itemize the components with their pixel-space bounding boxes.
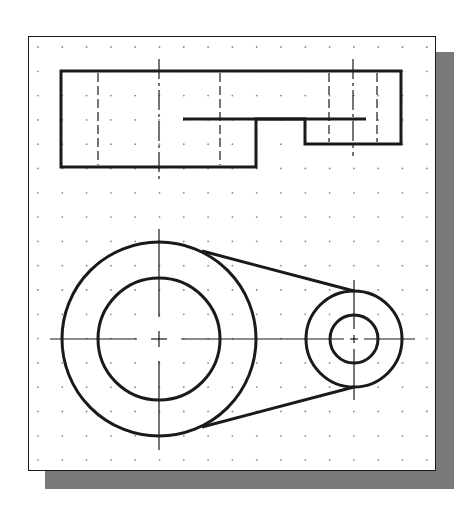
grid-dot [426, 435, 428, 437]
grid-dot [207, 241, 209, 243]
grid-dot [134, 241, 136, 243]
grid-dot [110, 362, 112, 364]
grid-dot [232, 265, 234, 267]
grid-dot [329, 435, 331, 437]
grid-dot [402, 241, 404, 243]
grid-dot [159, 459, 161, 461]
grid-dot [353, 265, 355, 267]
grid-dot [134, 362, 136, 364]
grid-dot [134, 119, 136, 121]
grid-dot [61, 216, 63, 218]
grid-dot [329, 289, 331, 291]
grid-dot [280, 459, 282, 461]
grid-dot [110, 216, 112, 218]
grid-dot [232, 459, 234, 461]
grid-dot [110, 46, 112, 48]
grid-dot [207, 216, 209, 218]
grid-dot [402, 192, 404, 194]
grid-dot [207, 459, 209, 461]
grid-dot [426, 216, 428, 218]
grid-dot [183, 435, 185, 437]
grid-dot [183, 289, 185, 291]
grid-dot [402, 386, 404, 388]
grid-dot [134, 459, 136, 461]
grid-dot [61, 192, 63, 194]
grid-dot [329, 313, 331, 315]
grid-dot [134, 95, 136, 97]
grid-dot [377, 386, 379, 388]
front-view-center-lines [50, 229, 415, 450]
grid-dot [304, 168, 306, 170]
grid-dot [86, 289, 88, 291]
grid-dot [256, 362, 258, 364]
grid-dot [426, 338, 428, 340]
grid-dot [426, 168, 428, 170]
grid-dot [183, 143, 185, 145]
grid-dot [329, 168, 331, 170]
grid-dot [304, 411, 306, 413]
grid-dot [232, 46, 234, 48]
grid-dot [353, 411, 355, 413]
grid-dot [402, 362, 404, 364]
grid-dot [402, 168, 404, 170]
grid-dot [61, 386, 63, 388]
grid-dot [377, 265, 379, 267]
grid-dot [377, 313, 379, 315]
grid-dot [353, 216, 355, 218]
grid-dot [86, 95, 88, 97]
grid-dot [280, 143, 282, 145]
grid-dot [37, 70, 39, 72]
grid-dot [256, 386, 258, 388]
grid-dot [426, 362, 428, 364]
grid-dot [37, 46, 39, 48]
grid-dot [37, 289, 39, 291]
grid-dot [86, 459, 88, 461]
grid-dot [402, 313, 404, 315]
grid-dot [426, 119, 428, 121]
grid-dot [159, 119, 161, 121]
grid-dot [232, 313, 234, 315]
grid-dot [304, 313, 306, 315]
grid-dot [61, 46, 63, 48]
grid-dot [61, 265, 63, 267]
grid-dot [402, 459, 404, 461]
grid-dot [110, 289, 112, 291]
grid-dot [86, 241, 88, 243]
grid-dot [110, 241, 112, 243]
grid-dot [426, 265, 428, 267]
grid-dot [134, 435, 136, 437]
grid-dot [37, 411, 39, 413]
grid-dot [183, 362, 185, 364]
grid-dot [110, 459, 112, 461]
belt-lower-tangent [202, 387, 354, 427]
grid-dot [402, 265, 404, 267]
grid-dot [256, 459, 258, 461]
grid-dot [37, 241, 39, 243]
grid-dot [37, 192, 39, 194]
grid-dot [159, 216, 161, 218]
grid-dot [110, 411, 112, 413]
grid-dot [37, 119, 39, 121]
grid-dot [280, 46, 282, 48]
grid-dot [377, 241, 379, 243]
grid-dot [426, 143, 428, 145]
grid-dot [280, 168, 282, 170]
grid-dot [256, 241, 258, 243]
grid-dot [304, 46, 306, 48]
grid-dot [134, 192, 136, 194]
grid-dot [37, 459, 39, 461]
grid-dot [377, 46, 379, 48]
grid-dot [280, 216, 282, 218]
grid-dot [402, 435, 404, 437]
grid-dot [377, 459, 379, 461]
grid-dot [183, 459, 185, 461]
grid-dot [377, 411, 379, 413]
belt-upper-tangent [202, 251, 354, 291]
grid-dot [353, 168, 355, 170]
grid-dot [377, 192, 379, 194]
grid-dot [353, 192, 355, 194]
grid-dot [207, 362, 209, 364]
grid-dot [207, 46, 209, 48]
grid-dot [207, 265, 209, 267]
grid-dot [280, 313, 282, 315]
